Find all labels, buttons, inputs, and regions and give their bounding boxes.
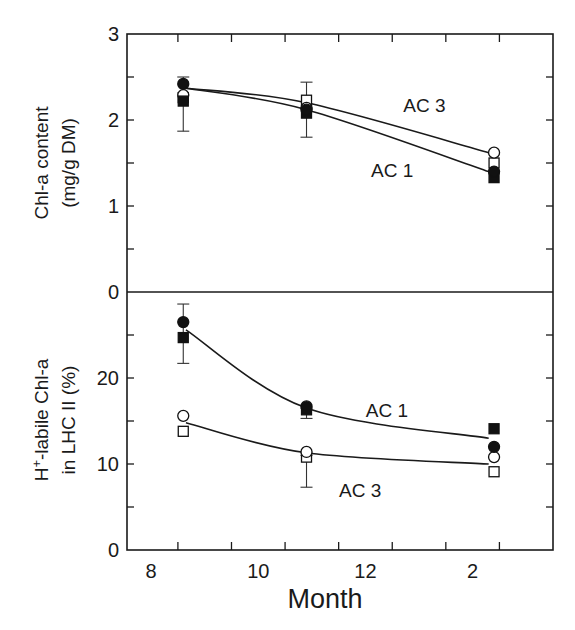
bottom-y-axis-title-line2: in LHC II (%) (58, 366, 79, 475)
marker-open-circle (301, 446, 312, 457)
marker-filled-circle (178, 317, 189, 328)
x-tick-label: 10 (247, 560, 269, 582)
y-tick-label: 20 (97, 367, 119, 389)
y-tick-label: 0 (108, 539, 119, 561)
marker-open-circle (178, 410, 189, 421)
top-y-axis-title-line1: Chl-a content (31, 106, 52, 220)
x-tick-label: 12 (354, 560, 376, 582)
fit-curve-ac1 (186, 330, 489, 438)
fit-curves (186, 88, 489, 464)
marker-open-square (178, 426, 188, 436)
marker-filled-square (178, 96, 188, 106)
y-tick-label: 10 (97, 453, 119, 475)
marker-filled-circle (301, 104, 312, 115)
curve-label: AC 3 (339, 480, 381, 501)
chart: 810122321020100 AC 3AC 1AC 1AC 3 Chl-a c… (0, 0, 575, 630)
curve-labels: AC 3AC 1AC 1AC 3 (339, 95, 446, 500)
y-tick-label: 1 (108, 195, 119, 217)
fit-curve-ac3 (186, 423, 489, 464)
marker-filled-circle (178, 78, 189, 89)
curve-label: AC 1 (366, 400, 408, 421)
y-tick-label: 2 (108, 109, 119, 131)
curve-label: AC 3 (403, 95, 445, 116)
marker-filled-square (178, 333, 188, 343)
x-tick-label: 8 (146, 560, 157, 582)
marker-filled-circle (301, 401, 312, 412)
marker-filled-square (489, 424, 499, 434)
marker-open-square (489, 467, 499, 477)
x-axis-title: Month (287, 584, 362, 614)
marker-open-circle (489, 452, 500, 463)
bottom-y-title-rest: -labile Chl-a (31, 358, 52, 460)
bottom-y-title-sup: + (29, 460, 44, 468)
bottom-y-title-base: H (31, 468, 52, 482)
y-tick-label: 0 (108, 281, 119, 303)
marker-filled-circle (489, 166, 500, 177)
marker-filled-circle (489, 441, 500, 452)
bottom-y-axis-title-line1: H+-labile Chl-a (29, 358, 52, 481)
curve-label: AC 1 (371, 160, 413, 181)
marker-open-circle (489, 147, 500, 158)
y-tick-label: 3 (108, 23, 119, 45)
top-y-axis-title-line2: (mg/g DM) (58, 118, 79, 208)
x-tick-label: 2 (467, 560, 478, 582)
